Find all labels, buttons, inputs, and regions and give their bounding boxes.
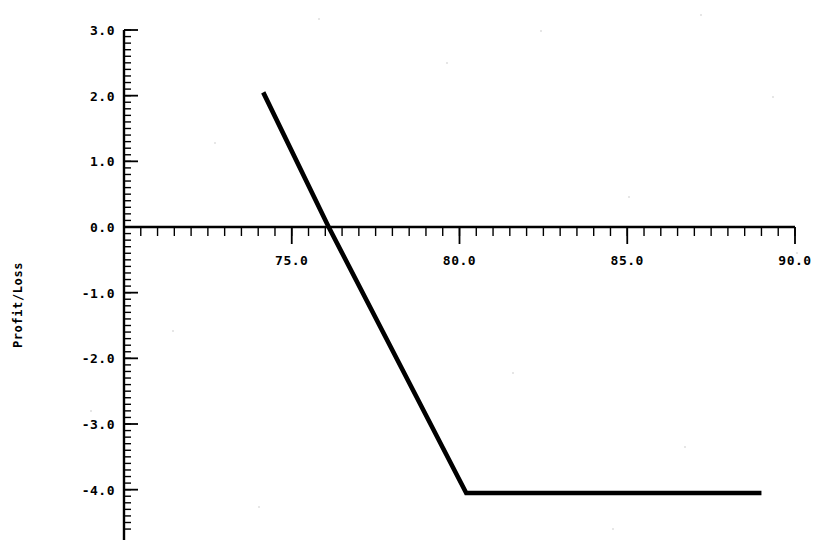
y-axis-title: Profit/Loss [11, 262, 25, 348]
y-tick-label: 2.0 [90, 89, 115, 104]
profit-loss-line-chart: 3.02.01.00.0-1.0-2.0-3.0-4.0 75.080.085.… [0, 0, 836, 552]
chart-container: 3.02.01.00.0-1.0-2.0-3.0-4.0 75.080.085.… [0, 0, 836, 552]
y-tick-label: 0.0 [90, 220, 115, 235]
y-tick-label: 1.0 [90, 154, 115, 169]
y-tick-label: 3.0 [90, 23, 115, 38]
y-tick-label: -2.0 [82, 351, 115, 366]
y-tick-label: -1.0 [82, 286, 115, 301]
y-tick-label: -3.0 [82, 417, 115, 432]
x-tick-label: 75.0 [275, 253, 308, 268]
y-tick-label: -4.0 [82, 483, 115, 498]
x-tick-label: 90.0 [778, 253, 811, 268]
x-tick-label: 80.0 [443, 253, 476, 268]
x-tick-label: 85.0 [611, 253, 644, 268]
